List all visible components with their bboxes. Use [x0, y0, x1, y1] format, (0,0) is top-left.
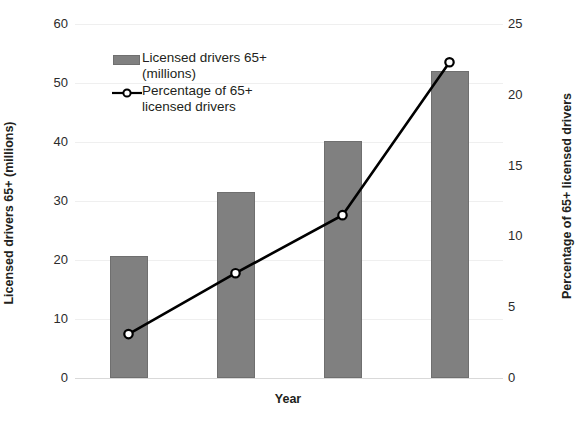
y-axis-right-tick-label: 0 [508, 371, 556, 384]
y-axis-left-tick-label: 30 [20, 194, 68, 207]
y-axis-left-ticks: 0102030405060 [20, 0, 68, 426]
legend-item-bars-label: Licensed drivers 65+ (millions) [142, 50, 267, 82]
y-axis-left-title-text: Licensed drivers 65+ (millions) [2, 121, 16, 304]
legend-item-line-label: Percentage of 65+ licensed drivers [142, 83, 253, 115]
bar-swatch-icon [112, 51, 142, 68]
legend-item-line-label-line1: Percentage of 65+ [142, 83, 253, 99]
y-axis-left-tick-label: 50 [20, 76, 68, 89]
combo-chart: Licensed drivers 65+ (millions) Percenta… [0, 0, 576, 426]
data-point-marker [231, 269, 239, 277]
y-axis-left-tick-label: 40 [20, 135, 68, 148]
data-point-marker [124, 330, 132, 338]
data-point-marker [338, 211, 346, 219]
y-axis-right-title-text: Percentage of 65+ licensed drivers [560, 93, 574, 299]
legend-item-bars-label-line1: Licensed drivers 65+ [142, 50, 267, 66]
y-axis-left-tick-label: 60 [20, 17, 68, 30]
legend-item-line-label-line2: licensed drivers [142, 99, 253, 115]
legend-item-bars-label-line2: (millions) [142, 66, 267, 82]
data-point-marker [445, 58, 453, 66]
line-marker-icon [112, 84, 142, 101]
legend-item-line: Percentage of 65+ licensed drivers [112, 83, 352, 115]
y-axis-right-tick-label: 25 [508, 17, 556, 30]
x-axis-title: Year [0, 392, 576, 406]
y-axis-right-tick-label: 15 [508, 159, 556, 172]
gridline [75, 378, 503, 379]
y-axis-right-title: Percentage of 65+ licensed drivers [558, 0, 576, 426]
y-axis-left-tick-label: 10 [20, 312, 68, 325]
y-axis-left-tick-label: 20 [20, 253, 68, 266]
y-axis-right-tick-label: 20 [508, 88, 556, 101]
y-axis-right-tick-label: 10 [508, 229, 556, 242]
y-axis-right-ticks: 0510152025 [508, 0, 556, 426]
y-axis-right-tick-label: 5 [508, 300, 556, 313]
chart-legend: Licensed drivers 65+ (millions) Percenta… [112, 50, 352, 116]
y-axis-left-tick-label: 0 [20, 371, 68, 384]
legend-item-bars: Licensed drivers 65+ (millions) [112, 50, 352, 82]
y-axis-left-title: Licensed drivers 65+ (millions) [0, 0, 18, 426]
